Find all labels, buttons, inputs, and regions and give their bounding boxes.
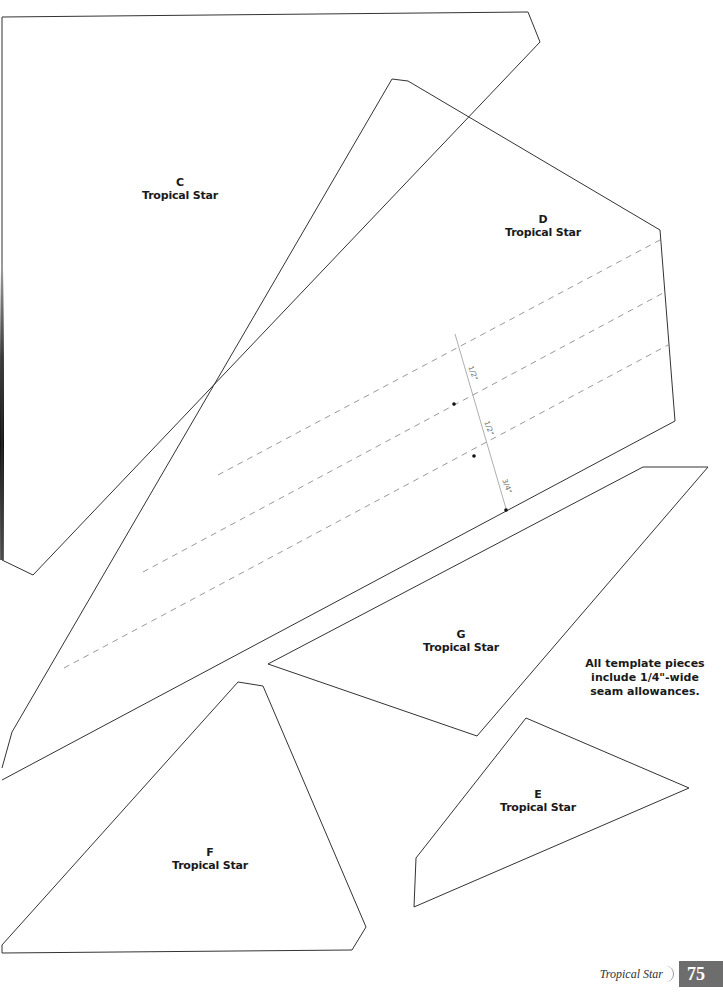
dimension-line bbox=[455, 334, 507, 512]
dimension-arrow bbox=[504, 508, 508, 512]
piece-letter: D bbox=[505, 213, 581, 226]
page-footer: Tropical Star 75 bbox=[600, 961, 723, 987]
piece-label-f: F Tropical Star bbox=[172, 846, 248, 872]
template-piece-d-outline bbox=[2, 79, 672, 775]
piece-label-e: E Tropical Star bbox=[500, 788, 576, 814]
piece-label-d: D Tropical Star bbox=[505, 213, 581, 239]
piece-name: Tropical Star bbox=[500, 801, 576, 814]
dashed-seam-line-3 bbox=[64, 344, 670, 668]
dimension-arrow bbox=[452, 402, 456, 406]
piece-letter: C bbox=[142, 176, 218, 189]
page-number: 75 bbox=[679, 961, 723, 987]
piece-letter: G bbox=[423, 628, 499, 641]
piece-name: Tropical Star bbox=[505, 226, 581, 239]
piece-label-c: C Tropical Star bbox=[142, 176, 218, 202]
note-line-2: include 1/4"-wide bbox=[580, 671, 710, 685]
template-pieces-drawing bbox=[0, 0, 723, 995]
dashed-seam-line-1 bbox=[218, 240, 660, 475]
swirl-ornament-icon bbox=[667, 963, 677, 985]
note-line-3: seam allowances. bbox=[580, 685, 710, 699]
piece-name: Tropical Star bbox=[423, 641, 499, 654]
piece-label-g: G Tropical Star bbox=[423, 628, 499, 654]
template-piece-d bbox=[2, 79, 497, 770]
template-piece-f bbox=[2, 682, 366, 953]
dimension-arrow bbox=[472, 454, 476, 458]
template-piece-d bbox=[2, 79, 675, 780]
piece-name: Tropical Star bbox=[172, 859, 248, 872]
template-piece-c bbox=[2, 12, 540, 575]
dashed-seam-line-2 bbox=[143, 292, 665, 572]
piece-letter: E bbox=[500, 788, 576, 801]
note-line-1: All template pieces bbox=[580, 657, 710, 671]
seam-allowance-note: All template pieces include 1/4"-wide se… bbox=[580, 657, 710, 699]
piece-letter: F bbox=[172, 846, 248, 859]
piece-name: Tropical Star bbox=[142, 189, 218, 202]
footer-title: Tropical Star bbox=[600, 967, 663, 982]
